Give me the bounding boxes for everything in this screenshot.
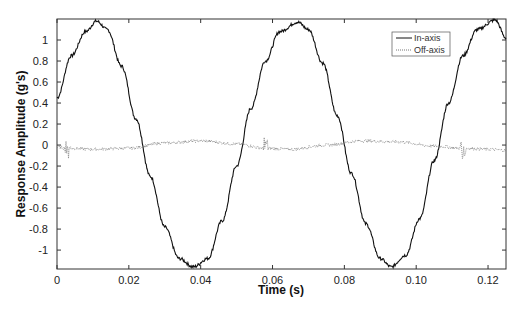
y-tick-label: 0.2 <box>33 118 48 130</box>
plot-frame <box>57 19 506 269</box>
y-tick-label: 0.6 <box>33 76 48 88</box>
y-tick-label: -0.8 <box>29 223 48 235</box>
x-axis-title: Time (s) <box>258 283 304 297</box>
series-line-in-axis <box>57 19 506 268</box>
x-tick-label: 0.10 <box>405 274 426 286</box>
y-tick-label: 0.4 <box>33 97 48 109</box>
series-group <box>57 19 506 268</box>
legend-label-off-axis: Off-axis <box>414 45 445 55</box>
y-axis-title: Response Amplitude (g's) <box>14 70 28 217</box>
y-tick-label: 1 <box>42 34 48 46</box>
response-amplitude-chart: 10.80.60.40.20-0.2-0.4-0.6-0.8-1 00.020.… <box>0 0 522 309</box>
y-tick-label: -1 <box>38 244 48 256</box>
y-tick-label: -0.6 <box>29 202 48 214</box>
x-tick-label: 0.08 <box>334 274 355 286</box>
x-axis-ticks: 00.020.040.060.080.100.12 <box>54 19 499 286</box>
y-tick-label: 0 <box>42 139 48 151</box>
x-tick-label: 0 <box>54 274 60 286</box>
x-tick-label: 0.04 <box>190 274 211 286</box>
legend: In-axis Off-axis <box>392 32 450 56</box>
y-tick-label: -0.4 <box>29 181 48 193</box>
legend-label-in-axis: In-axis <box>414 33 441 43</box>
y-tick-label: -0.2 <box>29 160 48 172</box>
y-axis-ticks: 10.80.60.40.20-0.2-0.4-0.6-0.8-1 <box>29 34 506 256</box>
x-tick-label: 0.02 <box>118 274 139 286</box>
y-tick-label: 0.8 <box>33 55 48 67</box>
x-tick-label: 0.12 <box>477 274 498 286</box>
